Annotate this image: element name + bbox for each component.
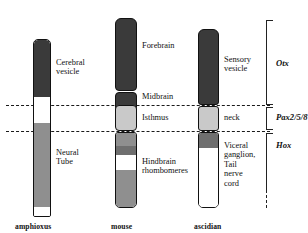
bracket-hox [266,133,273,190]
segment-rhombomere-3 [116,155,136,170]
gene-label-hox: Hox [276,140,291,150]
segment-cerebral-vesicle [34,40,50,97]
gene-label-otx: Otx [276,58,289,68]
callout-neural-tube: Neural Tube [56,148,79,167]
bracket-pax258 [266,107,273,130]
segment-rhombomere-1 [116,133,136,146]
segment-rhombomere-2 [116,146,136,155]
callout-forebrain: Forebrain [142,41,175,50]
species-label-mouse: mouse [111,222,132,231]
callout-sensory-vesicle: Sensory vesicle [224,55,251,74]
segment-rhombomere-4 [116,170,136,208]
callout-neck: neck [224,113,240,122]
bracket-otx [266,20,273,105]
callout-cerebral-vesicle: Cerebral vesicle [56,58,85,77]
gene-label-pax258: Pax2/5/8 [276,112,308,122]
bracket-hox-dashed-tail [266,190,273,208]
bar-mouse-rostral [115,18,137,91]
figure-canvas: Cerebral vesicle Neural Tube amphioxus F… [0,0,308,233]
segment-neural-tube [34,123,50,207]
bar-ascidian-sensory-vesicle [198,29,219,105]
species-label-ascidian: ascidian [194,222,221,231]
bar-mouse-hindbrain [115,132,137,208]
segment-visceral-ganglion [199,133,218,148]
callout-isthmus: Isthmus [142,113,169,122]
bar-ascidian-trunk [198,132,219,208]
callout-midbrain: Midbrain [142,92,173,101]
bar-amphioxus [33,39,51,217]
segment-tail-nerve-cord [199,148,218,208]
segment-anterior-gap [34,97,50,123]
bar-mouse-isthmus [115,105,137,131]
segment-posterior-tip [34,207,50,217]
callout-hindbrain: Hindbrain rhombomeres [142,157,188,176]
bar-ascidian-neck [198,106,219,131]
callout-visceral-ganglion: Viceral ganglion, Tail nerve cord [224,141,255,188]
species-label-amphioxus: amphioxus [15,222,51,231]
